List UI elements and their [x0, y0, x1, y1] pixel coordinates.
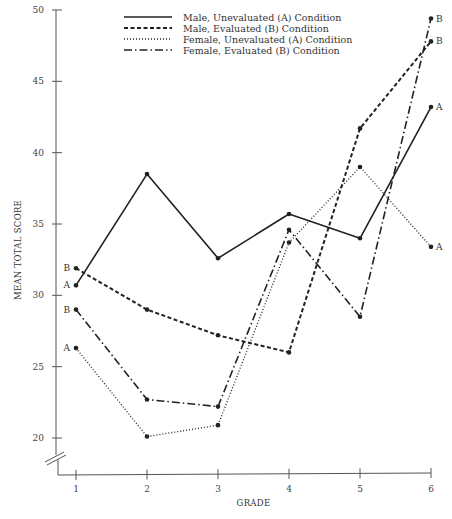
legend-item: Female, Evaluated (B) Condition [124, 45, 340, 56]
legend-label: Male, Unevaluated (A) Condition [183, 12, 341, 23]
y-tick-label: 50 [33, 5, 45, 15]
legend-label: Female, Evaluated (B) Condition [183, 45, 340, 56]
data-point [358, 314, 363, 319]
data-point [216, 333, 221, 338]
x-ticks: 123456 [73, 468, 434, 494]
x-tick-label: 5 [357, 484, 363, 494]
data-point [145, 434, 150, 439]
data-point [358, 126, 363, 131]
x-tick-label: 2 [144, 484, 150, 494]
series-start-label: B [63, 263, 70, 273]
x-tick-label: 3 [215, 484, 221, 494]
data-point [358, 165, 363, 170]
legend-label: Male, Evaluated (B) Condition [183, 23, 329, 34]
y-tick-label: 35 [33, 219, 45, 229]
series-2: BB [63, 36, 443, 354]
data-point [287, 212, 292, 217]
series-line [76, 41, 431, 352]
y-ticks: 20253035404550 [33, 5, 62, 443]
x-axis-title: GRADE [237, 498, 271, 508]
series-line [76, 167, 431, 437]
x-tick-label: 6 [428, 484, 434, 494]
series-3: AA [63, 165, 444, 439]
y-tick-label: 40 [33, 148, 45, 158]
y-tick-label: 30 [33, 290, 45, 300]
x-tick-label: 4 [286, 484, 292, 494]
y-tick-label: 25 [33, 362, 45, 372]
data-point [429, 245, 434, 250]
data-point [287, 227, 292, 232]
series-end-label: A [435, 242, 443, 252]
y-tick-label: 45 [33, 76, 45, 86]
legend-item: Male, Unevaluated (A) Condition [124, 12, 341, 23]
series-end-label: B [436, 14, 443, 24]
data-point [429, 16, 434, 21]
series-1: AA [63, 102, 444, 290]
data-point [287, 350, 292, 355]
data-point [145, 397, 150, 402]
data-point [145, 172, 150, 177]
series-layer: AABBAABB [63, 14, 444, 439]
x-axis-line [58, 473, 431, 475]
y-tick-label: 20 [33, 433, 45, 443]
y-axis-title: MEAN TOTAL SCORE [13, 200, 23, 300]
legend: Male, Unevaluated (A) ConditionMale, Eva… [124, 12, 352, 56]
series-start-label: A [63, 280, 71, 290]
data-point [216, 256, 221, 261]
line-chart: 20253035404550 123456 GRADE MEAN TOTAL S… [0, 0, 452, 519]
legend-item: Male, Evaluated (B) Condition [124, 23, 329, 34]
series-start-label: B [63, 305, 70, 315]
data-point [429, 39, 434, 44]
data-point [74, 346, 79, 351]
data-point [74, 266, 79, 271]
data-point [74, 307, 79, 312]
x-tick-label: 1 [73, 484, 79, 494]
series-end-label: B [436, 36, 443, 46]
data-point [216, 404, 221, 409]
data-point [287, 240, 292, 245]
series-line [76, 107, 431, 285]
legend-item: Female, Unevaluated (A) Condition [124, 34, 352, 45]
data-point [216, 423, 221, 428]
legend-label: Female, Unevaluated (A) Condition [183, 34, 352, 45]
series-end-label: A [435, 102, 443, 112]
data-point [429, 105, 434, 110]
series-start-label: A [63, 343, 71, 353]
series-line [76, 19, 431, 407]
series-4: BB [63, 14, 443, 409]
data-point [74, 283, 79, 288]
data-point [358, 236, 363, 241]
data-point [145, 307, 150, 312]
